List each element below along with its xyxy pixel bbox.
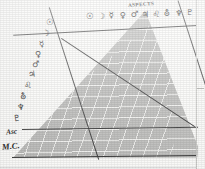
col-header-sun-glyph[interactable]: ☉: [86, 12, 94, 21]
row-header-mars-glyph[interactable]: ♂: [31, 60, 40, 69]
row-header-column: ☉ ☽ ☿ ♀ ♂ ♃ ♌ ⛢ ♆ ♇ Asc M.C.: [0, 18, 70, 163]
scanned-page: ASPECTS ☉ ☽ ☿ ♀ ♂ ♃ ♌ ⛢ ♆ ♇ ☉ ☽ ☿ ♀ ♂ ♃ …: [0, 0, 205, 169]
page-bottom-rule: [0, 167, 196, 168]
col-header-pluto-glyph[interactable]: ♇: [186, 8, 194, 17]
column-header-row: ☉ ☽ ☿ ♀ ♂ ♃ ♌ ⛢ ♆ ♇: [86, 8, 201, 24]
row-header-venus-glyph[interactable]: ♀: [34, 50, 41, 59]
row-header-ascendant[interactable]: Asc: [6, 127, 18, 136]
col-header-mercury-glyph[interactable]: ☿: [109, 11, 114, 20]
row-header-jupiter-glyph[interactable]: ♃: [27, 70, 36, 79]
row-header-moon-glyph[interactable]: ☽: [41, 29, 50, 38]
col-header-venus-glyph[interactable]: ♀: [120, 11, 126, 20]
col-header-neptune-glyph[interactable]: ♆: [175, 9, 183, 18]
col-header-uranus-glyph[interactable]: ⛢: [164, 9, 170, 18]
page-margin-rule: [196, 0, 197, 169]
row-header-midheaven[interactable]: M.C.: [1, 141, 19, 151]
page-margin-tick: [197, 88, 204, 89]
row-header-pluto-glyph[interactable]: ♇: [12, 114, 21, 123]
row-header-neptune-glyph[interactable]: ♆: [16, 103, 25, 112]
row-header-mercury-glyph[interactable]: ☿: [38, 40, 44, 49]
row-header-saturn-glyph[interactable]: ♌: [23, 81, 32, 90]
col-header-moon-glyph[interactable]: ☽: [98, 12, 106, 21]
col-header-jupiter-glyph[interactable]: ♃: [142, 10, 150, 19]
col-header-mars-glyph[interactable]: ♂: [131, 10, 139, 19]
row-header-uranus-glyph[interactable]: ⛢: [19, 92, 26, 101]
row-header-sun-glyph[interactable]: ☉: [45, 18, 54, 27]
col-header-saturn-glyph[interactable]: ♌: [153, 10, 161, 19]
